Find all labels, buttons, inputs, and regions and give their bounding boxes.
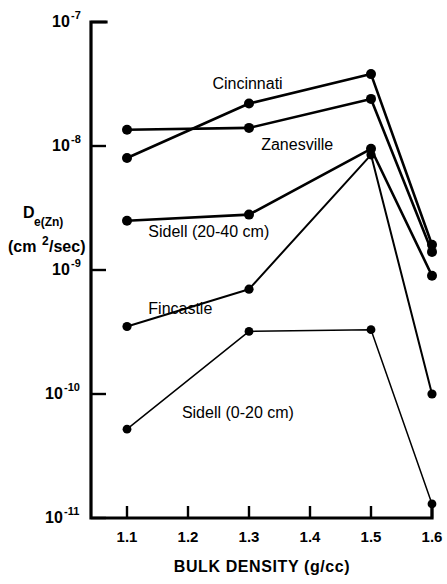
data-point bbox=[366, 150, 375, 159]
y-axis-title-units-superscript: 2 bbox=[42, 234, 49, 248]
y-axis-title-units-tail: /sec) bbox=[49, 238, 85, 255]
x-tick-label-1.4: 1.4 bbox=[300, 528, 322, 545]
y-tick-label-1e-8-base: 10 bbox=[52, 137, 70, 154]
series-sidell-20-40-cm bbox=[122, 144, 437, 281]
y-axis-title: D e(Zn) (cm 2 /sec) bbox=[8, 204, 85, 255]
y-tick-labels: 10 -7 10 -8 10 -9 10 -10 10 -11 bbox=[45, 9, 81, 526]
data-point bbox=[244, 285, 253, 294]
y-ticks bbox=[91, 22, 106, 518]
series-label-zanesville: Zanesville bbox=[261, 136, 333, 153]
y-tick-label-1e-7-exp: -7 bbox=[71, 9, 81, 21]
data-point bbox=[427, 247, 437, 257]
y-tick-label-1e-11-base: 10 bbox=[45, 509, 63, 526]
data-point bbox=[427, 389, 436, 398]
x-tick-label-1.6: 1.6 bbox=[422, 528, 443, 545]
data-point bbox=[244, 123, 254, 133]
data-point bbox=[122, 153, 132, 163]
data-point bbox=[244, 210, 254, 220]
series-label-cincinnati: Cincinnati bbox=[212, 75, 282, 92]
data-point bbox=[245, 327, 254, 336]
x-tick-label-1.2: 1.2 bbox=[178, 528, 199, 545]
x-tick-label-1.3: 1.3 bbox=[239, 528, 260, 545]
axis-lines bbox=[91, 22, 432, 518]
data-point bbox=[367, 325, 376, 334]
x-ticks bbox=[127, 506, 432, 518]
y-axis-title-symbol: D bbox=[23, 204, 35, 221]
data-point bbox=[122, 216, 132, 226]
y-axis-title-units-base: (cm bbox=[8, 238, 36, 255]
data-point bbox=[428, 500, 437, 509]
y-tick-label-1e-10-exp: -10 bbox=[64, 381, 80, 393]
axis-frame bbox=[91, 22, 432, 518]
y-axis-title-subscript: e(Zn) bbox=[34, 215, 63, 229]
chart-figure: 10 -7 10 -8 10 -9 10 -10 10 -11 D e(Zn) … bbox=[0, 0, 447, 584]
data-point bbox=[427, 271, 437, 281]
series-label-layer: CincinnatiZanesvilleSidell (20-40 cm)Fin… bbox=[148, 75, 333, 421]
data-point bbox=[123, 425, 132, 434]
chart-canvas: 10 -7 10 -8 10 -9 10 -10 10 -11 D e(Zn) … bbox=[0, 0, 447, 584]
series-label-fincastle: Fincastle bbox=[148, 300, 212, 317]
x-tick-label-1.5: 1.5 bbox=[361, 528, 382, 545]
y-tick-label-1e-8-exp: -8 bbox=[71, 133, 81, 145]
y-tick-label-1e-10-base: 10 bbox=[45, 385, 63, 402]
data-point bbox=[122, 322, 131, 331]
y-tick-label-1e-9-exp: -9 bbox=[71, 257, 81, 269]
y-tick-label-1e-11-exp: -11 bbox=[64, 505, 79, 517]
x-axis-title: BULK DENSITY (g/cc) bbox=[174, 558, 350, 575]
y-tick-label-1e-9-base: 10 bbox=[52, 261, 70, 278]
series-line-fincastle bbox=[127, 155, 432, 394]
data-point bbox=[366, 69, 376, 79]
x-tick-labels: 1.1 1.2 1.3 1.4 1.5 1.6 bbox=[117, 528, 443, 545]
data-point bbox=[366, 94, 376, 104]
y-tick-label-1e-7-base: 10 bbox=[52, 13, 70, 30]
data-point bbox=[122, 125, 132, 135]
series-label-sidell-20-40-cm: Sidell (20-40 cm) bbox=[148, 223, 269, 240]
x-tick-label-1.1: 1.1 bbox=[117, 528, 138, 545]
series-label-sidell-0-20-cm: Sidell (0-20 cm) bbox=[182, 404, 294, 421]
data-point bbox=[244, 99, 254, 109]
